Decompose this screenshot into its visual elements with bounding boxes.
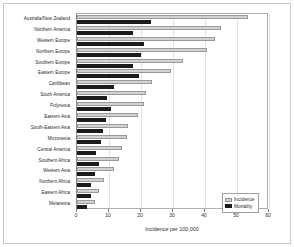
category-label: Western Europe [6,38,70,43]
bar-incidence [77,146,122,150]
bar-group [77,48,267,57]
category-label: Eastern Africa [6,190,70,195]
bar-mortality [77,151,96,155]
bar-group [77,91,267,100]
legend-swatch-incidence [225,198,232,202]
category-label: Southern Africa [6,158,70,163]
bar-incidence [77,167,114,171]
bar-group [77,102,267,111]
category-label: Eastern Europe [6,70,70,75]
bar-mortality [77,162,99,166]
category-label: Southern Europe [6,60,70,65]
bar-mortality [77,85,114,89]
chart-legend: Incidence Mortality [222,193,259,213]
bar-incidence [77,135,127,139]
legend-item-mortality: Mortality [225,203,255,209]
bar-group [77,146,267,155]
bar-mortality [77,140,101,144]
x-tick-label: 30 [169,212,175,218]
bar-mortality [77,183,91,187]
bar-incidence [77,48,207,52]
bar-incidence [77,91,146,95]
bar-mortality [77,118,106,122]
category-label: Australia/New Zealand [6,16,70,21]
bar-incidence [77,59,183,63]
category-label: Central America [6,147,70,152]
bar-incidence [77,157,119,161]
bar-mortality [77,194,91,198]
bar-group [77,178,267,187]
category-label: Micronesia [6,136,70,141]
bar-mortality [77,42,144,46]
bar-incidence [77,189,99,193]
legend-item-incidence: Incidence [225,197,255,203]
bar-mortality [77,107,111,111]
x-tick-label: 10 [105,212,111,218]
bar-incidence [77,124,128,128]
category-label: Western Asia [6,168,70,173]
bar-mortality [77,96,107,100]
x-tick-label: 40 [201,212,207,218]
bar-group [77,157,267,166]
bar-mortality [77,31,133,35]
x-axis-title: Incidence per 100,000 [76,226,268,232]
bar-incidence [77,37,215,41]
category-label: Eastern Asia [6,114,70,119]
bar-group [77,59,267,68]
bar-mortality [77,172,95,176]
x-tick-label: 0 [75,212,78,218]
bar-incidence [77,102,144,106]
x-tick-label: 50 [233,212,239,218]
bar-group [77,69,267,78]
category-axis-labels: Australia/New ZealandNorthern AmericaWes… [8,13,74,209]
bar-group [77,135,267,144]
bar-mortality [77,64,133,68]
category-label: Northern Europe [6,49,70,54]
bar-group [77,124,267,133]
bar-mortality [77,53,141,57]
category-label: Northern America [6,27,70,32]
legend-swatch-mortality [225,204,232,208]
bar-group [77,113,267,122]
category-label: South-Eastern Asia [6,125,70,130]
bar-group [77,167,267,176]
category-label: South America [6,92,70,97]
bar-mortality [77,129,103,133]
bar-mortality [77,74,139,78]
bar-group [77,26,267,35]
category-label: Polynesia [6,103,70,108]
x-tick-label: 20 [137,212,143,218]
bar-group [77,15,267,24]
gridline-60 [269,14,270,208]
bar-group [77,80,267,89]
bar-rows [77,14,267,208]
bar-incidence [77,200,95,204]
x-tick-label: 60 [265,212,271,218]
figure-frame: Australia/New ZealandNorthern AmericaWes… [3,3,291,244]
bar-incidence [77,80,152,84]
legend-label-incidence: Incidence [234,197,255,202]
bar-incidence [77,15,248,19]
bar-incidence [77,26,221,30]
category-label: Northern Africa [6,179,70,184]
category-label: Melanesia [6,201,70,206]
chart-figure: Australia/New ZealandNorthern AmericaWes… [0,0,294,247]
plot-area [76,13,268,209]
bar-mortality [77,20,151,24]
bar-incidence [77,69,171,73]
legend-label-mortality: Mortality [234,204,252,209]
bar-group [77,37,267,46]
category-label: Caribbean [6,81,70,86]
bar-incidence [77,178,104,182]
bar-incidence [77,113,138,117]
